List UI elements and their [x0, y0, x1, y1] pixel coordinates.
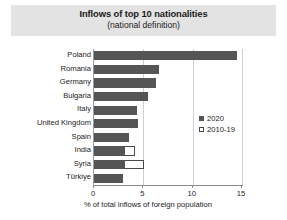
x-tick-label: 0	[81, 189, 105, 199]
x-axis-line	[93, 185, 243, 186]
chart-legend: 20202010-19	[199, 113, 249, 135]
x-axis-label: % of total inflows of foreign population	[84, 200, 212, 210]
category-label: Italy	[5, 104, 91, 114]
bar-2020	[94, 78, 156, 87]
bar-row: Germany	[0, 76, 287, 90]
chart-title: Inflows of top 10 nationalities	[11, 8, 276, 19]
bar-2020	[94, 119, 138, 128]
category-label: Germany	[5, 77, 91, 87]
legend-swatch-hollow	[199, 127, 204, 132]
bar-2020	[94, 51, 237, 60]
bar-row: Poland	[0, 49, 287, 63]
bar-row: India	[0, 144, 287, 158]
bar-2020	[94, 146, 125, 155]
legend-item: 2010-19	[199, 124, 249, 135]
x-tick	[142, 185, 143, 188]
category-label: Türkiye	[5, 172, 91, 182]
legend-label: 2020	[207, 113, 224, 124]
legend-swatch-filled	[199, 116, 204, 121]
x-tick-label: 15	[229, 189, 253, 199]
chart-subtitle: (national definition)	[11, 20, 276, 31]
category-label: United Kingdom	[5, 118, 91, 128]
x-tick	[241, 185, 242, 188]
legend-label: 2010-19	[207, 124, 235, 135]
category-label: Romania	[5, 64, 91, 74]
bar-2020	[94, 106, 137, 115]
category-label: India	[5, 145, 91, 155]
bar-2020	[94, 92, 148, 101]
category-label: Bulgaria	[5, 91, 91, 101]
title-band: Inflows of top 10 nationalities (nationa…	[11, 5, 276, 36]
category-label: Spain	[5, 132, 91, 142]
chart-figure: Inflows of top 10 nationalities (nationa…	[0, 0, 287, 220]
bar-2020	[94, 174, 123, 183]
bar-2020	[94, 160, 125, 169]
bar-2020	[94, 133, 129, 142]
x-tick-label: 5	[130, 189, 154, 199]
legend-item: 2020	[199, 113, 249, 124]
bar-row: Romania	[0, 63, 287, 77]
x-tick	[93, 185, 94, 188]
category-label: Syria	[5, 159, 91, 169]
bar-row: Türkiye	[0, 171, 287, 185]
bar-2020	[94, 65, 159, 74]
x-tick	[192, 185, 193, 188]
x-tick-label: 10	[180, 189, 204, 199]
bar-row: Syria	[0, 158, 287, 172]
bar-row: Bulgaria	[0, 90, 287, 104]
category-label: Poland	[5, 50, 91, 60]
